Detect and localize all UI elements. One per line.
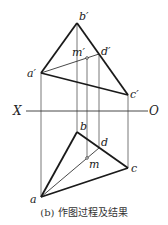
label-a-prime: a′ bbox=[27, 67, 37, 80]
line-a-prime-d-prime bbox=[41, 54, 99, 73]
axis-label-o: O bbox=[149, 104, 159, 118]
top-view-triangle bbox=[41, 132, 128, 197]
label-m: m bbox=[89, 158, 99, 171]
label-d: d bbox=[101, 136, 108, 149]
projection-diagram: X O b′ a′ m′ d′ c′ b d m c a (b) 作图过程及结果 bbox=[0, 0, 168, 225]
diagram-canvas: X O b′ a′ m′ d′ c′ b d m c a bbox=[0, 0, 168, 225]
point-m bbox=[86, 157, 89, 160]
label-c: c bbox=[131, 162, 137, 175]
label-c-prime: c′ bbox=[130, 88, 139, 101]
point-m-prime bbox=[86, 57, 89, 60]
label-b: b bbox=[80, 120, 87, 133]
label-d-prime: d′ bbox=[101, 45, 111, 58]
label-m-prime: m′ bbox=[72, 46, 85, 59]
axis-label-x: X bbox=[12, 104, 22, 118]
line-a-d bbox=[41, 148, 99, 197]
label-b-prime: b′ bbox=[79, 10, 89, 23]
figure-caption: (b) 作图过程及结果 bbox=[0, 204, 168, 219]
